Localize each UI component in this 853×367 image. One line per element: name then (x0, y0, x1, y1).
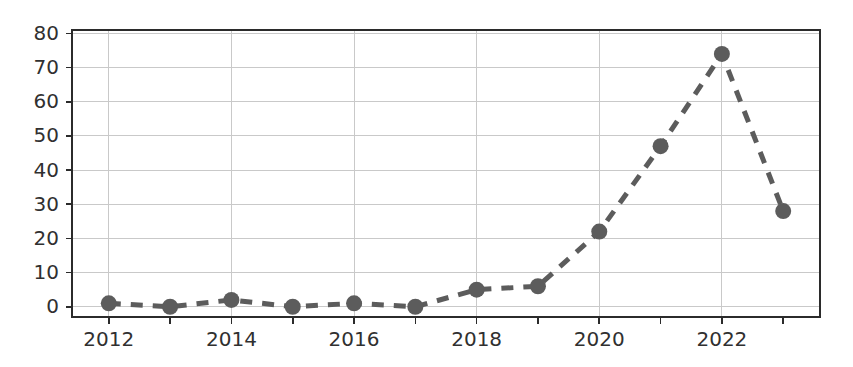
data-point (469, 282, 485, 298)
y-axis-tick-labels: 01020304050607080 (34, 21, 59, 318)
y-tick-label: 30 (34, 192, 59, 216)
x-tick-label: 2012 (83, 327, 134, 351)
y-tick-label: 80 (34, 21, 59, 45)
data-point (775, 203, 791, 219)
line-chart: 01020304050607080 2012201420162018202020… (0, 0, 853, 367)
chart-canvas: 01020304050607080 2012201420162018202020… (0, 0, 853, 367)
data-point (653, 138, 669, 154)
x-tick-label: 2022 (696, 327, 747, 351)
data-point (101, 295, 117, 311)
x-tick-label: 2020 (574, 327, 625, 351)
data-point (285, 299, 301, 315)
data-point (223, 292, 239, 308)
x-tick-label: 2016 (329, 327, 380, 351)
data-point (162, 299, 178, 315)
data-point (591, 224, 607, 240)
y-tick-label: 70 (34, 55, 59, 79)
y-tick-label: 40 (34, 158, 59, 182)
y-tick-label: 0 (46, 294, 59, 318)
data-point (530, 278, 546, 294)
y-tick-label: 10 (34, 260, 59, 284)
x-tick-label: 2018 (451, 327, 502, 351)
x-tick-label: 2014 (206, 327, 257, 351)
y-tick-label: 20 (34, 226, 59, 250)
data-point (346, 295, 362, 311)
y-tick-label: 60 (34, 89, 59, 113)
data-point (714, 46, 730, 62)
data-point (407, 299, 423, 315)
y-tick-label: 50 (34, 123, 59, 147)
